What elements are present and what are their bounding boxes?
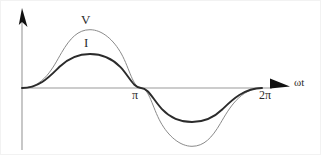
- x-tick-label-pi: π: [132, 89, 138, 101]
- x-tick-label-two-pi: 2π: [259, 89, 271, 101]
- current-curve-label: I: [84, 36, 88, 49]
- waveform-figure: V I π 2π ωt: [0, 0, 322, 156]
- x-axis-arrow-icon: [270, 79, 290, 89]
- plot-canvas: [0, 0, 322, 156]
- x-axis-title: ωt: [294, 77, 304, 88]
- voltage-curve-label: V: [81, 13, 90, 26]
- y-axis-arrow-icon: [22, 8, 28, 27]
